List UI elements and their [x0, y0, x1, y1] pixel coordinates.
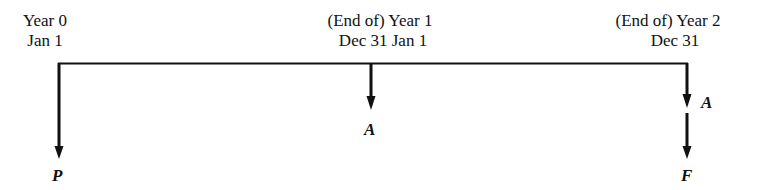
- year1-label: (End of) Year 1 Dec 31 Jan 1: [290, 11, 470, 51]
- year0-title: Year 0: [2, 11, 88, 31]
- flow-label-a2: A: [701, 93, 712, 113]
- flow-label-f: F: [681, 166, 692, 186]
- arrow-a1-head: [367, 96, 376, 110]
- year2-label: (End of) Year 2 Dec 31: [578, 11, 758, 51]
- flow-label-a1: A: [364, 120, 375, 140]
- arrow-p-head: [55, 146, 64, 159]
- arrow-a2-head: [683, 94, 692, 108]
- flow-label-p: P: [52, 166, 62, 186]
- year1-title: (End of) Year 1: [290, 11, 470, 31]
- year2-title: (End of) Year 2: [578, 11, 758, 31]
- year2-date: Dec 31: [578, 31, 758, 51]
- year0-date: Jan 1: [2, 31, 88, 51]
- year1-date: Dec 31 Jan 1: [290, 31, 470, 51]
- arrow-f-head: [683, 146, 692, 159]
- year0-label: Year 0 Jan 1: [2, 11, 88, 51]
